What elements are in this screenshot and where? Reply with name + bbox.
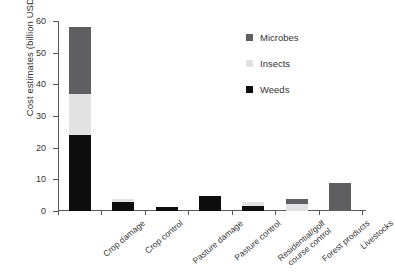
bar-segment-weeds <box>112 202 134 212</box>
bar-segment-microbes <box>69 27 91 94</box>
y-tick: 40 <box>53 84 58 85</box>
x-tick <box>232 211 233 215</box>
legend-label: Microbes <box>260 32 299 43</box>
y-tick-label: 0 <box>41 207 46 216</box>
plot-area: 0102030405060 <box>58 21 362 211</box>
bar-segment-weeds <box>242 206 264 211</box>
bar[interactable] <box>199 196 221 211</box>
x-axis-label: Crop damage <box>101 218 147 259</box>
x-tick <box>319 211 320 215</box>
bar[interactable] <box>156 207 178 211</box>
y-tick: 20 <box>53 148 58 149</box>
bar[interactable] <box>286 199 308 211</box>
legend-item-insects[interactable]: Insects <box>246 50 299 76</box>
bar[interactable] <box>69 27 91 211</box>
bar-segment-weeds <box>199 196 221 211</box>
chart-legend: MicrobesInsectsWeeds <box>246 24 299 102</box>
x-tick <box>188 211 189 215</box>
x-tick <box>275 211 276 215</box>
y-tick-label: 20 <box>36 143 46 152</box>
bar-segment-microbes <box>329 183 351 212</box>
bar[interactable] <box>242 202 264 211</box>
legend-swatch-icon <box>246 34 253 41</box>
legend-item-weeds[interactable]: Weeds <box>246 76 299 102</box>
y-tick: 30 <box>53 116 58 117</box>
legend-label: Weeds <box>260 84 289 95</box>
x-axis-label: Crop control <box>143 218 185 255</box>
x-tick <box>58 211 59 215</box>
y-tick-label: 30 <box>36 112 46 121</box>
y-tick-label: 10 <box>36 175 46 184</box>
bar-segment-insects <box>69 94 91 135</box>
y-tick: 60 <box>53 21 58 22</box>
bar-segment-weeds <box>156 207 178 211</box>
bar[interactable] <box>112 199 134 211</box>
y-tick-label: 40 <box>36 80 46 89</box>
bar-segment-insects <box>286 204 308 211</box>
x-tick <box>101 211 102 215</box>
y-tick-label: 60 <box>36 17 46 26</box>
y-axis-line <box>58 21 59 211</box>
x-tick <box>362 211 363 215</box>
legend-swatch-icon <box>246 60 253 67</box>
legend-label: Insects <box>260 58 290 69</box>
y-tick: 10 <box>53 179 58 180</box>
legend-item-microbes[interactable]: Microbes <box>246 24 299 50</box>
bar-segment-weeds <box>69 135 91 211</box>
y-tick: 50 <box>53 53 58 54</box>
bar[interactable] <box>329 183 351 212</box>
legend-swatch-icon <box>246 86 253 93</box>
y-tick-label: 50 <box>36 48 46 57</box>
x-tick <box>145 211 146 215</box>
y-axis-title: Cost estimates (billion USD) <box>24 0 35 151</box>
